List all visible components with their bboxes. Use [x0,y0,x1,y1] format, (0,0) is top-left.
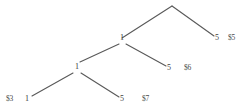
price-annotation-a3: $3 [6,95,13,103]
tree-edge-n1-to-n2 [80,44,119,62]
tree-node-n2-label: 1 [73,63,81,71]
tree-node-n1-label: 1 [118,34,126,42]
price-annotation-a6: $6 [184,64,191,72]
tree-leaf-l7-label: 5 [120,95,124,103]
diagram-canvas: 1 1 1 5 5 5 $5 $6 $7 $3 [0,0,247,112]
tree-edge-n1-to-l6 [126,44,166,66]
tree-edge-root-to-l5 [172,6,214,36]
price-annotation-a7: $7 [142,95,149,103]
tree-edge-n2-to-l7 [81,73,119,97]
tree-edge-n2-to-n3 [32,73,73,96]
tree-leaf-l6-label: 5 [167,64,171,72]
tree-leaf-l5-label: 5 [215,34,219,42]
tree-node-n3-label: 1 [23,95,31,103]
price-annotation-a5: $5 [228,34,235,42]
tree-edge-root-to-n1 [122,6,172,38]
